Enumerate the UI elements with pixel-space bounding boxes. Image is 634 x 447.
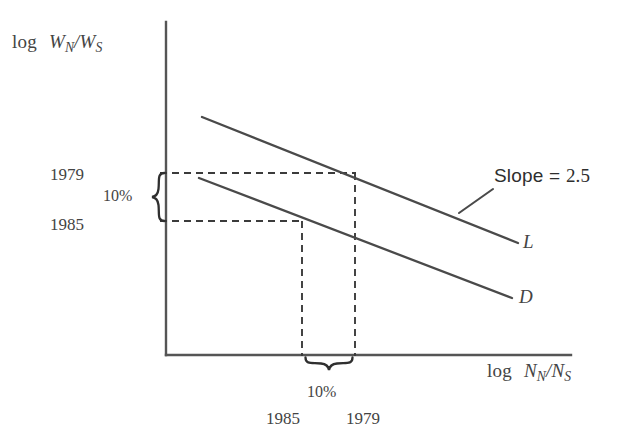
wage-label-1985: 1985 [50, 216, 84, 233]
quantity-gap-percent-label: 10% [307, 384, 336, 400]
supply-curve-L [202, 117, 518, 243]
y-axis-numerator: W [49, 31, 65, 52]
curve-label-L: L [523, 232, 534, 251]
demand-curve-D [199, 178, 512, 298]
quantity-gap-brace [306, 358, 353, 371]
slope-annotation-equals: = [549, 165, 560, 186]
slope-annotation-value: 2.5 [566, 165, 590, 186]
curve-label-D: D [519, 287, 533, 306]
y-axis-numerator-subscript: N [65, 40, 74, 55]
x-axis-title: logNN/NS [487, 361, 571, 384]
wage-label-1979: 1979 [50, 166, 84, 183]
y-axis-title-prefix: log [12, 31, 37, 52]
x-axis-denominator: N [551, 360, 564, 381]
x-axis-numerator-subscript: N [537, 369, 546, 384]
y-axis-denominator-subscript: S [96, 40, 103, 55]
x-axis-title-prefix: log [487, 360, 512, 381]
x-axis-numerator: N [524, 360, 537, 381]
slope-annotation-prefix: Slope [494, 165, 544, 186]
slope-annotation: Slope = 2.5 [494, 166, 590, 185]
curve-lines [199, 117, 518, 298]
wage-gap-percent-label: 10% [103, 188, 132, 204]
y-axis-title: logWN/WS [12, 32, 102, 55]
y-axis-denominator: W [80, 31, 96, 52]
slope-leader-line [459, 189, 493, 213]
quantity-label-1985: 1985 [266, 410, 300, 427]
figure-canvas: logWN/WS logNN/NS 1979 1985 10% 10% 1985… [0, 0, 634, 447]
x-axis-denominator-subscript: S [564, 369, 571, 384]
wage-gap-brace [152, 173, 165, 221]
quantity-label-1979: 1979 [346, 410, 380, 427]
